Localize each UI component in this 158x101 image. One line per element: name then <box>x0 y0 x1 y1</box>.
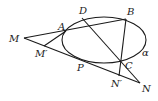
ellipse-alpha <box>62 17 146 63</box>
point-label-Np: N′ <box>110 78 123 89</box>
geometry-diagram: MADBM′PCN′N α <box>0 0 158 101</box>
alpha-label: α <box>142 47 149 58</box>
point-label-P: P <box>76 62 84 73</box>
point-label-M: M <box>8 33 20 44</box>
segment-M-B <box>24 19 126 38</box>
point-label-B: B <box>126 6 134 17</box>
point-label-C: C <box>125 60 133 71</box>
point-label-A: A <box>57 21 65 32</box>
point-label-Mp: M′ <box>34 48 48 59</box>
point-labels: MADBM′PCN′N <box>8 5 152 94</box>
point-label-N: N <box>141 83 152 94</box>
point-label-D: D <box>78 5 87 16</box>
segment-D-N <box>82 18 140 83</box>
